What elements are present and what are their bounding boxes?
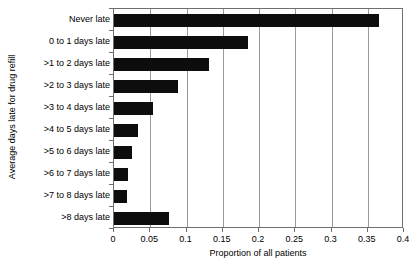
bar <box>114 212 169 225</box>
y-axis-tick <box>109 96 113 97</box>
y-axis-tick <box>109 8 113 9</box>
x-axis-tick-label: 0.15 <box>202 234 242 244</box>
category-label: >7 to 8 days late <box>8 190 110 200</box>
x-axis-tick-label: 0.35 <box>347 234 387 244</box>
bar <box>114 36 248 49</box>
x-axis-tick <box>258 228 259 232</box>
category-label-list: Never late0 to 1 days late>1 to 2 days l… <box>8 8 110 228</box>
bar <box>114 14 379 27</box>
x-axis-tick <box>331 228 332 232</box>
bar <box>114 58 209 71</box>
x-axis-tick-label: 0.2 <box>238 234 278 244</box>
x-axis-tick-label: 0.4 <box>383 234 416 244</box>
y-axis-tick <box>109 30 113 31</box>
bar <box>114 80 178 93</box>
bar-chart: Average days late for drug refill Never … <box>0 0 416 268</box>
category-label: >8 days late <box>8 212 110 222</box>
category-label: 0 to 1 days late <box>8 36 110 46</box>
bar <box>114 102 153 115</box>
bar <box>114 124 138 137</box>
x-axis-title: Proportion of all patients <box>113 248 403 258</box>
x-axis-tick-label: 0 <box>93 234 133 244</box>
y-axis-tick <box>109 52 113 53</box>
gridline <box>259 9 260 227</box>
x-axis-tick <box>367 228 368 232</box>
bar <box>114 168 128 181</box>
y-axis-tick <box>109 118 113 119</box>
cut-off-caption <box>0 262 416 268</box>
bar <box>114 146 132 159</box>
y-axis-tick <box>109 140 113 141</box>
x-axis-tick-label: 0.25 <box>274 234 314 244</box>
y-axis-tick <box>109 206 113 207</box>
x-axis-tick <box>149 228 150 232</box>
category-label: >1 to 2 days late <box>8 58 110 68</box>
x-axis-tick <box>113 228 114 232</box>
y-axis-tick <box>109 162 113 163</box>
plot-area <box>113 8 403 228</box>
category-label: Never late <box>8 14 110 24</box>
category-label: >5 to 6 days late <box>8 146 110 156</box>
y-axis-tick <box>109 184 113 185</box>
x-axis-tick <box>403 228 404 232</box>
x-axis-tick <box>222 228 223 232</box>
category-label: >6 to 7 days late <box>8 168 110 178</box>
category-label: >2 to 3 days late <box>8 80 110 90</box>
gridline <box>368 9 369 227</box>
x-axis-tick <box>294 228 295 232</box>
x-axis-tick-label: 0.1 <box>166 234 206 244</box>
category-label: >3 to 4 days late <box>8 102 110 112</box>
x-axis-tick-label: 0.05 <box>129 234 169 244</box>
gridline <box>295 9 296 227</box>
x-axis-tick <box>186 228 187 232</box>
gridline <box>332 9 333 227</box>
x-axis-tick-label: 0.3 <box>311 234 351 244</box>
bar <box>114 190 127 203</box>
y-axis-tick <box>109 74 113 75</box>
category-label: >4 to 5 days late <box>8 124 110 134</box>
